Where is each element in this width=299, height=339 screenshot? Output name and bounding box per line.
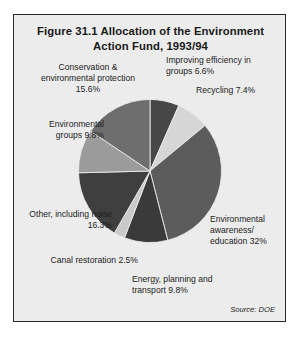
pie-label-environmental-groups: Environmental groups 9.8%	[22, 119, 104, 141]
pie-label-canal-restoration: Canal restoration 2.5%	[40, 255, 138, 266]
pie-label-other-including-noise: Other, including noise 16.3%	[28, 209, 112, 231]
pie-chart: Conservation & environmental protection …	[14, 15, 287, 323]
pie-label-recycling: Recycling 7.4%	[196, 85, 266, 96]
pie-label-improving-efficiency: Improving efficiency in groups 6.6%	[166, 55, 266, 77]
source-note: Source: DOE	[230, 305, 275, 314]
pie-label-energy-planning-transport: Energy, planning and transport 9.8%	[132, 274, 222, 296]
pie-label-environmental-awareness: Environmental awareness/ education 32%	[210, 214, 286, 248]
pie-label-conservation: Conservation & environmental protection …	[36, 62, 140, 96]
figure-panel: Figure 31.1 Allocation of the Environmen…	[13, 14, 286, 322]
